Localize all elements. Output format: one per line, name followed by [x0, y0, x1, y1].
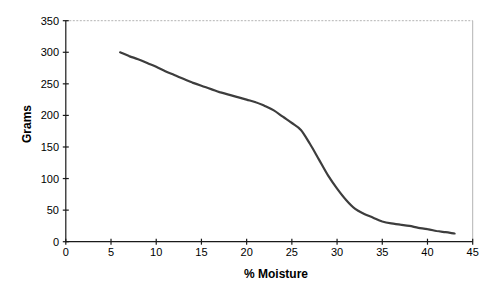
drying-curve-chart: 051015202530354045 050100150200250300350… — [0, 0, 500, 288]
y-tick-label: 350 — [41, 15, 59, 27]
y-tick-label: 250 — [41, 78, 59, 90]
x-tick-label: 45 — [467, 246, 479, 258]
series-line — [120, 52, 455, 233]
x-tick-label: 30 — [331, 246, 343, 258]
y-tick-labels: 050100150200250300350 — [41, 15, 59, 248]
x-tick-label: 20 — [241, 246, 253, 258]
x-tick-label: 40 — [421, 246, 433, 258]
x-tick-label: 5 — [108, 246, 114, 258]
y-tick-label: 100 — [41, 173, 59, 185]
y-axis-title: Grams — [20, 105, 34, 143]
y-tick-label: 0 — [53, 236, 59, 248]
x-tick-label: 15 — [195, 246, 207, 258]
x-axis-title: % Moisture — [244, 267, 308, 281]
chart-canvas: 051015202530354045 050100150200250300350… — [0, 0, 500, 288]
y-tick-label: 150 — [41, 141, 59, 153]
x-tick-label: 35 — [376, 246, 388, 258]
axes — [66, 21, 473, 242]
y-tick-label: 200 — [41, 109, 59, 121]
x-tick-label: 10 — [150, 246, 162, 258]
x-tick-label: 25 — [286, 246, 298, 258]
x-tick-label: 0 — [63, 246, 69, 258]
x-tick-labels: 051015202530354045 — [63, 246, 479, 258]
y-tick-label: 50 — [47, 204, 59, 216]
y-tick-label: 300 — [41, 46, 59, 58]
plot-border — [66, 21, 473, 242]
